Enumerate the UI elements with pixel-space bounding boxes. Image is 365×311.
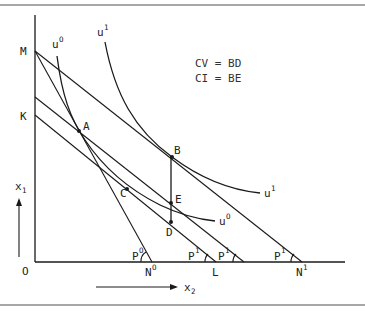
point-D bbox=[169, 220, 173, 224]
label-N1-sup: 1 bbox=[303, 263, 308, 272]
budget-line-M-N0 bbox=[35, 51, 152, 262]
label-u0-top-sup: O bbox=[59, 35, 64, 44]
annotation-cv: CV = BD bbox=[195, 57, 241, 70]
label-P1-a: P bbox=[188, 250, 195, 263]
angle-arc-N1 bbox=[291, 254, 294, 262]
label-u0-right-sup: O bbox=[226, 212, 231, 221]
angle-arc-mid bbox=[233, 254, 236, 262]
annotation-ci: CI = BE bbox=[195, 72, 241, 85]
indifference-curve-u0 bbox=[57, 56, 215, 221]
label-P1-b-sup: 1 bbox=[225, 246, 230, 255]
vertical-label-M: M bbox=[20, 45, 27, 58]
budget-line-through-A bbox=[35, 97, 244, 262]
label-u1-right-sup: 1 bbox=[271, 184, 276, 193]
vertical-label-K: K bbox=[20, 110, 27, 123]
y-axis-label-sub: 1 bbox=[22, 186, 27, 195]
x1-arrowhead-icon bbox=[16, 198, 22, 206]
x-axis-label-sub: 2 bbox=[191, 287, 196, 296]
label-P0: P bbox=[132, 250, 139, 263]
x2-arrowhead-icon bbox=[170, 284, 178, 290]
label-P1-c-sup: 1 bbox=[281, 246, 286, 255]
label-u1-right: u bbox=[264, 187, 271, 200]
label-u1-top: u bbox=[97, 26, 104, 39]
label-N1: N bbox=[296, 266, 303, 279]
label-N0-sup: O bbox=[152, 263, 157, 272]
label-E: E bbox=[175, 193, 182, 206]
label-A: A bbox=[83, 120, 90, 133]
label-P0-sup: O bbox=[139, 246, 144, 255]
label-D: D bbox=[166, 226, 173, 239]
point-A bbox=[77, 129, 81, 133]
y-axis-label: x bbox=[15, 180, 22, 193]
angle-arc-L bbox=[205, 254, 208, 262]
point-E bbox=[169, 201, 173, 205]
label-u1-top-sup: 1 bbox=[104, 23, 109, 32]
label-u0-right: u bbox=[219, 215, 226, 228]
label-P1-c: P bbox=[274, 250, 281, 263]
label-C: C bbox=[120, 187, 127, 200]
origin-label: O bbox=[22, 265, 29, 278]
label-N0: N bbox=[145, 266, 152, 279]
welfare-diagram: CV = BD CI = BE M K O x 1 x 2 N O L N 1 … bbox=[0, 0, 365, 311]
label-P1-b: P bbox=[218, 250, 225, 263]
label-u0-top: u bbox=[52, 38, 59, 51]
label-B: B bbox=[174, 144, 181, 157]
x-axis-label: x bbox=[184, 281, 191, 294]
label-P1-a-sup: 1 bbox=[195, 246, 200, 255]
label-L: L bbox=[212, 266, 219, 279]
